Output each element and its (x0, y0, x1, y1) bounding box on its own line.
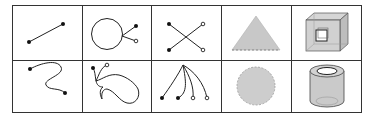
cell-cube-with-hole (292, 6, 361, 60)
curve-fan-icon (152, 61, 221, 114)
cell-curve-fan (152, 61, 221, 114)
curve-icon (13, 61, 82, 114)
circle-with-stems-icon (83, 6, 151, 60)
cell-disk (222, 61, 291, 114)
line-segment-icon (13, 6, 82, 60)
cell-cylinder (292, 61, 361, 114)
cylinder-icon (292, 61, 361, 114)
cell-triangle (222, 6, 291, 60)
triangle-icon (222, 6, 291, 60)
cell-circle-with-stems (83, 6, 151, 60)
cell-blob-with-stems (83, 61, 151, 114)
blob-with-stems-icon (83, 61, 151, 114)
cube-with-hole-icon (292, 6, 361, 60)
shape-grid (12, 5, 362, 113)
cell-curve (13, 61, 82, 114)
disk-icon (222, 61, 291, 114)
cell-line-segment (13, 6, 82, 60)
cell-crossing-lines (152, 6, 221, 60)
crossing-lines-icon (152, 6, 221, 60)
